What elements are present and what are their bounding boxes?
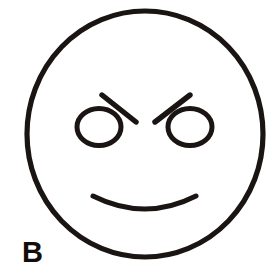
left-eye [77, 109, 121, 146]
right-eye [168, 109, 212, 146]
head-outline [27, 11, 263, 257]
panel-label: B [22, 238, 43, 267]
mouth [93, 196, 196, 209]
figure-panel: B [0, 0, 276, 280]
